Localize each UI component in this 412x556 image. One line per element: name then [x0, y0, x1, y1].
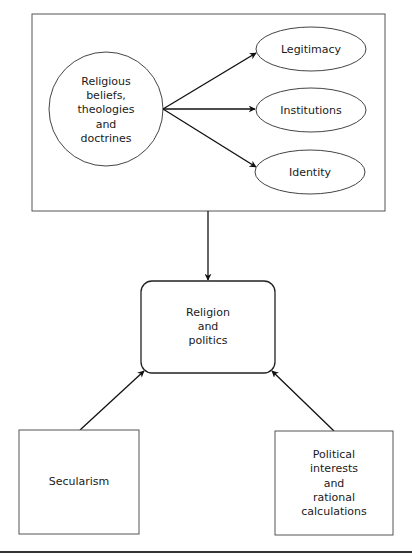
central-node-line: Religion — [186, 306, 230, 319]
diagram-canvas: Religious beliefs, theologies and doctri… — [0, 0, 412, 556]
central-node-line: politics — [189, 334, 228, 347]
right-node-line: rational — [313, 491, 355, 504]
right-node: Political interests and rational calcula… — [275, 431, 393, 535]
source-node-line: doctrines — [80, 132, 131, 145]
source-node-line: Religious — [81, 75, 131, 88]
edge-right-central — [272, 371, 334, 431]
outcome-node-label: Identity — [289, 166, 332, 179]
edge-source-identity — [163, 109, 256, 167]
left-node-line: Secularism — [49, 475, 110, 488]
outcome-node-label: Legitimacy — [281, 43, 342, 56]
source-node-line: beliefs, — [86, 89, 126, 102]
source-node-line: and — [96, 118, 117, 131]
source-node: Religious beliefs, theologies and doctri… — [49, 52, 163, 166]
right-node-line: and — [324, 477, 345, 490]
outcome-node-label: Institutions — [280, 104, 342, 117]
right-node-line: calculations — [301, 505, 367, 518]
edge-source-legitimacy — [163, 53, 256, 109]
outcome-node-identity: Identity — [255, 150, 365, 194]
central-node: Religion and politics — [141, 281, 275, 373]
right-node-line: interests — [310, 462, 358, 475]
source-node-line: theologies — [77, 103, 134, 116]
outcome-node-legitimacy: Legitimacy — [256, 27, 366, 71]
edge-left-central — [80, 371, 144, 430]
outcome-node-institutions: Institutions — [256, 88, 366, 132]
left-node: Secularism — [19, 430, 139, 534]
right-node-line: Political — [313, 448, 355, 461]
central-node-line: and — [198, 320, 219, 333]
